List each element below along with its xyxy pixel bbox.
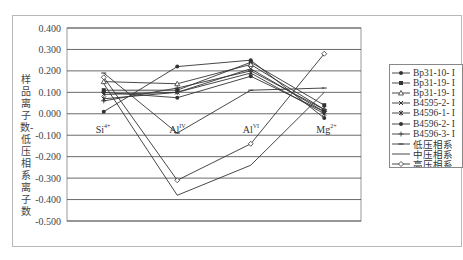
legend-label: B4596-2- I <box>413 119 455 129</box>
legend-swatch-icon <box>392 69 410 77</box>
legend-swatch-icon <box>392 79 410 87</box>
legend-swatch-icon <box>392 89 410 97</box>
y-tick-label: -0.200 <box>35 151 61 162</box>
y-tick-label: 0.200 <box>39 65 62 76</box>
legend-swatch-icon <box>392 150 410 158</box>
legend-swatch-icon <box>392 130 410 138</box>
legend-label: B4595-2- I <box>413 98 455 108</box>
y-tick-label: 0.100 <box>39 87 62 98</box>
y-tick-label: -0.400 <box>35 194 61 205</box>
legend-swatch-icon <box>392 99 410 107</box>
x-category-label: Si4+ <box>96 123 111 135</box>
y-tick-label: 0.000 <box>39 108 62 119</box>
series-line <box>102 60 327 107</box>
y-tick-label: 0.400 <box>39 23 62 34</box>
legend-label: Bp31-10- I <box>413 68 455 78</box>
x-category-label: AlVI <box>243 123 259 135</box>
chart-legend: Bp31-10- IBp31-19- IBp31-19- IB4595-2- I… <box>389 64 463 168</box>
y-tick-label: -0.500 <box>35 216 61 227</box>
series-line <box>101 73 327 133</box>
y-tick-label: -0.300 <box>35 173 61 184</box>
y-tick-label: -0.100 <box>35 130 61 141</box>
legend-label: Bp31-19- I <box>413 88 455 98</box>
legend-item: 高压相系 <box>392 159 453 168</box>
legend-label: Bp31-19- I <box>413 78 455 88</box>
legend-swatch-icon <box>392 160 410 168</box>
y-axis-label: 样品离子数-低压相系离子数 <box>20 74 32 218</box>
legend-swatch-icon <box>392 140 410 148</box>
y-tick-label: 0.300 <box>39 44 62 55</box>
legend-swatch-icon <box>392 120 410 128</box>
legend-swatch-icon <box>392 109 410 117</box>
x-category-label: Mg2+ <box>316 123 337 135</box>
legend-label: B4596-1- I <box>413 108 455 118</box>
legend-label: 高压相系 <box>413 157 453 168</box>
